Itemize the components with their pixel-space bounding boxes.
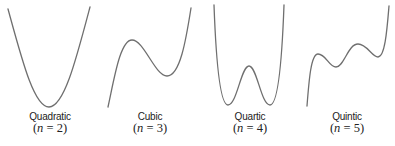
quartic-curve [214, 5, 284, 105]
quadratic-label: Quadratic (n = 2) [5, 112, 95, 135]
degree-formula: (n = 5) [302, 122, 392, 135]
paren-close: ) [263, 121, 267, 135]
quintic-label: Quintic (n = 5) [302, 112, 392, 135]
quadratic-curve [8, 7, 90, 107]
degree-formula: (n = 4) [205, 122, 295, 135]
equals-sign: = [243, 121, 256, 135]
paren-close: ) [360, 121, 364, 135]
quintic-curve [307, 6, 389, 106]
cubic-label: Cubic (n = 3) [105, 112, 195, 135]
cubic-curve [108, 8, 191, 107]
paren-close: ) [163, 121, 167, 135]
paren-close: ) [63, 121, 67, 135]
quartic-label: Quartic (n = 4) [205, 112, 295, 135]
equals-sign: = [340, 121, 353, 135]
equals-sign: = [43, 121, 56, 135]
degree-formula: (n = 3) [105, 122, 195, 135]
degree-formula: (n = 2) [5, 122, 95, 135]
equals-sign: = [143, 121, 156, 135]
